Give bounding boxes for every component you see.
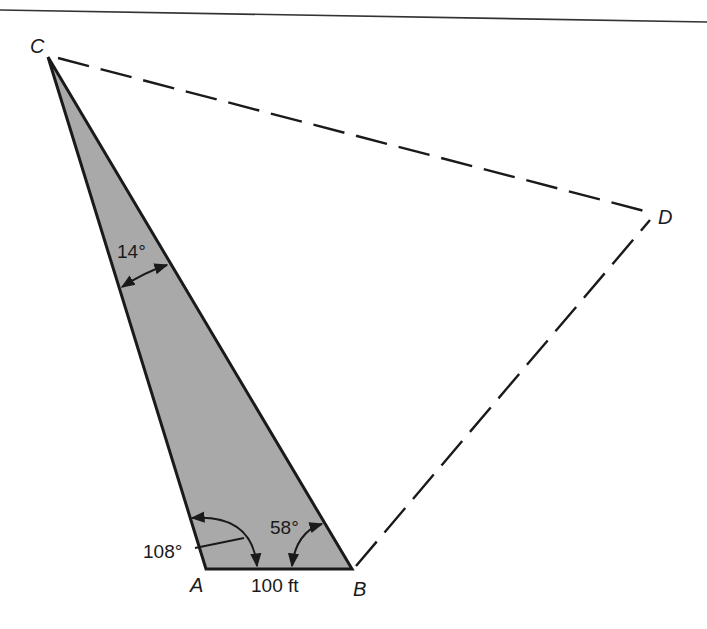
vertex-label-c: C (30, 35, 45, 57)
baseline-length-label: 100 ft (251, 575, 299, 596)
surveying-diagram: C A B D 14° 108° 58° 100 ft (0, 0, 707, 629)
angle-label-c: 14° (117, 241, 146, 262)
vertex-label-d: D (658, 206, 672, 228)
vertex-label-b: B (353, 578, 366, 600)
top-border-rule (0, 10, 707, 22)
triangle-abc (48, 57, 352, 569)
dashed-line-cd (58, 58, 652, 213)
angle-label-a: 108° (143, 541, 182, 562)
vertex-label-a: A (189, 574, 203, 596)
dashed-line-bd (356, 220, 650, 566)
angle-label-b: 58° (270, 517, 299, 538)
